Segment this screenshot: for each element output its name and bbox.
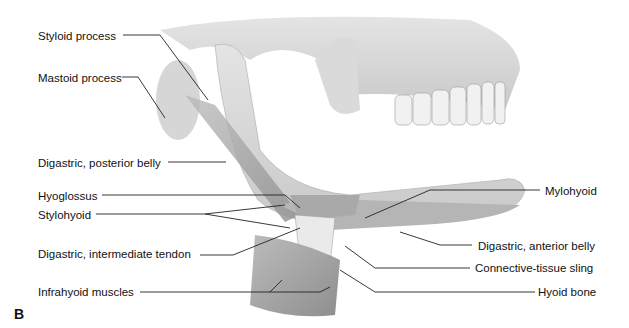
label-hyoid-bone: Hyoid bone (538, 286, 596, 299)
panel-letter: B (14, 306, 24, 322)
label-styloid-process: Styloid process (38, 30, 116, 43)
anatomy-figure: Styloid process Mastoid process Digastri… (0, 0, 629, 328)
label-mastoid-process: Mastoid process (38, 72, 122, 85)
label-digastric-intermediate-tendon: Digastric, intermediate tendon (38, 248, 191, 261)
label-connective-tissue-sling: Connective-tissue sling (475, 262, 593, 275)
label-infrahyoid-muscles: Infrahyoid muscles (38, 286, 134, 299)
label-mylohyoid: Mylohyoid (545, 185, 597, 198)
label-stylohyoid: Stylohyoid (38, 209, 91, 222)
label-digastric-anterior-belly: Digastric, anterior belly (478, 240, 595, 253)
label-digastric-posterior-belly: Digastric, posterior belly (38, 157, 161, 170)
label-hyoglossus: Hyoglossus (38, 190, 97, 203)
